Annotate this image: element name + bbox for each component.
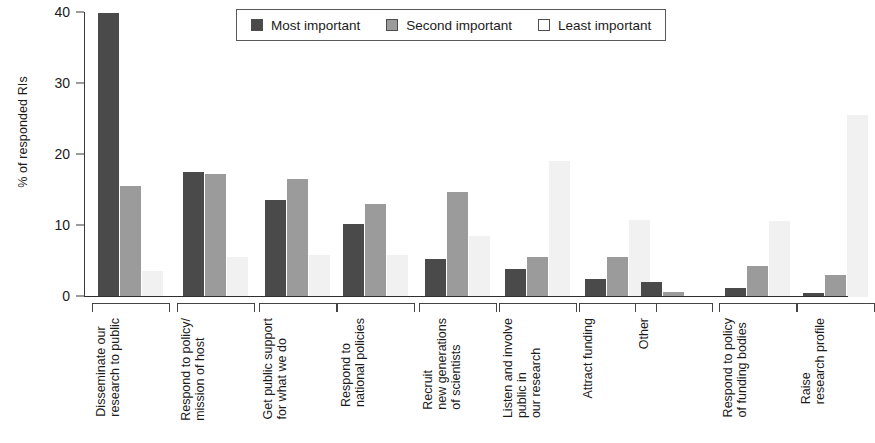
category-bracket xyxy=(177,303,255,312)
bar-group xyxy=(425,8,491,297)
legend-swatch-icon xyxy=(538,19,550,31)
category-bracket xyxy=(92,303,170,312)
bar xyxy=(183,172,204,297)
bar xyxy=(769,221,790,297)
bar-group xyxy=(505,8,571,297)
bar xyxy=(265,200,286,297)
label-line: research profile xyxy=(813,318,827,404)
bar-group xyxy=(803,8,869,297)
label-line: of funding bodies xyxy=(735,318,749,417)
bar-group xyxy=(265,8,331,297)
y-axis-tick-mark xyxy=(76,296,84,297)
bar xyxy=(607,257,628,297)
label-line: our research xyxy=(529,318,543,418)
bar xyxy=(205,174,226,297)
label-line: for what we do xyxy=(275,318,289,419)
bar-group xyxy=(183,8,249,297)
x-axis-category-label: Respond tonational policies xyxy=(339,318,367,407)
x-axis-line xyxy=(85,296,848,297)
y-axis-tick-mark xyxy=(76,83,84,84)
x-axis-category-label: Disseminate ourresearch to public xyxy=(94,318,122,417)
x-axis-category-label: Raiseresearch profile xyxy=(799,318,827,404)
category-bracket xyxy=(419,303,497,312)
bar xyxy=(847,115,868,297)
x-axis-category-label: Other xyxy=(637,318,651,349)
label-line: mission of host xyxy=(193,318,207,421)
y-axis-tick-label: 20 xyxy=(24,147,70,161)
bar xyxy=(98,13,119,297)
legend-item: Most important xyxy=(251,18,360,33)
bar xyxy=(309,255,330,297)
label-line: Get public support xyxy=(261,318,275,419)
label-line: public in xyxy=(515,318,529,418)
bar xyxy=(343,224,364,297)
category-bracket xyxy=(337,303,415,312)
bar xyxy=(549,161,570,297)
bar xyxy=(387,255,408,297)
y-axis-tick-label: 30 xyxy=(24,76,70,90)
bar xyxy=(287,179,308,297)
bar-group xyxy=(641,8,707,297)
bar xyxy=(505,269,526,297)
y-axis-tick-mark xyxy=(76,225,84,226)
label-line: Recruit xyxy=(421,318,435,410)
x-axis-category-label: Recruitnew generationsof scientists xyxy=(421,318,463,410)
legend-label: Second important xyxy=(406,18,512,33)
label-line: Raise xyxy=(799,318,813,404)
bar-group xyxy=(98,8,164,297)
bar xyxy=(120,186,141,297)
label-line: national policies xyxy=(353,318,367,407)
x-axis-category-label: Get public supportfor what we do xyxy=(261,318,289,419)
legend-label: Most important xyxy=(271,18,360,33)
label-line: Disseminate our xyxy=(94,318,108,417)
x-axis-category-label: Attract funding xyxy=(581,318,595,399)
bar xyxy=(825,275,846,297)
x-axis-category-label: Respond to policyof funding bodies xyxy=(721,318,749,417)
y-axis-tick-mark xyxy=(76,154,84,155)
category-bracket xyxy=(499,303,577,312)
label-line: new generations xyxy=(435,318,449,410)
bar xyxy=(447,192,468,297)
bar xyxy=(365,204,386,297)
bar-group xyxy=(725,8,791,297)
bar xyxy=(527,257,548,297)
label-line: of scientists xyxy=(449,318,463,410)
category-bracket xyxy=(797,303,875,312)
y-axis-tick-label: 0 xyxy=(24,289,70,303)
label-line: research to public xyxy=(108,318,122,417)
bar xyxy=(585,279,606,297)
bar xyxy=(142,271,163,297)
legend-swatch-icon xyxy=(251,19,263,31)
bar xyxy=(641,282,662,297)
category-bracket xyxy=(719,303,797,312)
y-axis-tick-mark xyxy=(76,12,84,13)
label-line: Respond to policy/ xyxy=(179,318,193,421)
label-line: Other xyxy=(637,318,651,349)
bar-group xyxy=(343,8,409,297)
y-axis-tick-label: 40 xyxy=(24,5,70,19)
legend-swatch-icon xyxy=(386,19,398,31)
legend-item: Second important xyxy=(386,18,512,33)
bar xyxy=(227,257,248,297)
label-line: Attract funding xyxy=(581,318,595,399)
category-bracket xyxy=(635,303,713,312)
chart-legend: Most importantSecond importantLeast impo… xyxy=(236,9,666,41)
legend-label: Least important xyxy=(558,18,651,33)
legend-item: Least important xyxy=(538,18,651,33)
bar xyxy=(469,236,490,297)
y-axis-tick-label: 10 xyxy=(24,218,70,232)
x-axis-category-label: Respond to policy/mission of host xyxy=(179,318,207,421)
plot-area xyxy=(85,8,848,297)
label-line: Respond to policy xyxy=(721,318,735,417)
x-axis-category-label: Listen and involvepublic inour research xyxy=(501,318,543,418)
label-line: Listen and involve xyxy=(501,318,515,418)
category-bracket xyxy=(259,303,337,312)
bar xyxy=(747,266,768,297)
bar xyxy=(425,259,446,297)
label-line: Respond to xyxy=(339,318,353,407)
y-axis-title: % of responded RIs xyxy=(16,47,30,217)
